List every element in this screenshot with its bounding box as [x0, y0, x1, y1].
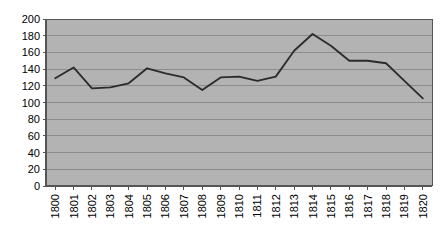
y-tick-label-60: 60	[28, 130, 40, 142]
x-tick-label-1802: 1802	[86, 194, 98, 218]
x-tick-label-1812: 1812	[270, 194, 282, 218]
x-tick-label-1808: 1808	[196, 194, 208, 218]
x-tick-label-1810: 1810	[233, 194, 245, 218]
x-tick-label-1809: 1809	[215, 194, 227, 218]
y-tick-label-120: 120	[22, 80, 40, 92]
y-tick-label-20: 20	[28, 163, 40, 175]
x-tick-label-1806: 1806	[159, 194, 171, 218]
x-tick-label-1804: 1804	[123, 194, 135, 218]
x-tick-label-1805: 1805	[141, 194, 153, 218]
x-tick-label-1820: 1820	[417, 194, 429, 218]
y-tick-label-180: 180	[22, 30, 40, 42]
y-tick-label-0: 0	[34, 180, 40, 192]
x-tick-label-1803: 1803	[104, 194, 116, 218]
x-tick-label-1815: 1815	[325, 194, 337, 218]
x-tick-label-1807: 1807	[178, 194, 190, 218]
x-tick-label-1813: 1813	[288, 194, 300, 218]
chart-canvas: 0204060801001201401601802001800180118021…	[0, 0, 447, 231]
y-tick-label-80: 80	[28, 113, 40, 125]
y-tick-label-140: 140	[22, 63, 40, 75]
x-tick-label-1819: 1819	[398, 194, 410, 218]
line-chart: 0204060801001201401601802001800180118021…	[0, 0, 447, 231]
x-tick-label-1811: 1811	[251, 194, 263, 218]
y-tick-label-100: 100	[22, 97, 40, 109]
x-tick-label-1800: 1800	[49, 194, 61, 218]
y-tick-label-40: 40	[28, 147, 40, 159]
x-tick-label-1816: 1816	[343, 194, 355, 218]
x-tick-label-1817: 1817	[362, 194, 374, 218]
x-tick-label-1801: 1801	[68, 194, 80, 218]
x-tick-label-1818: 1818	[380, 194, 392, 218]
x-tick-label-1814: 1814	[307, 194, 319, 218]
y-tick-label-200: 200	[22, 13, 40, 25]
y-tick-label-160: 160	[22, 46, 40, 58]
